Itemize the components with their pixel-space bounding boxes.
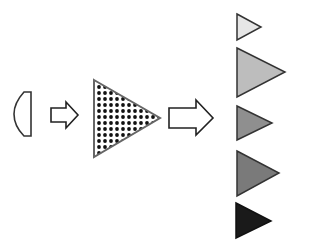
pattern-triangle — [94, 80, 160, 157]
output-triangle-3 — [237, 106, 272, 140]
lens-icon — [14, 92, 31, 136]
arrow-right-icon — [51, 102, 78, 128]
diagram-canvas — [0, 0, 310, 249]
output-triangle-1 — [237, 14, 261, 40]
output-triangle-5 — [236, 203, 271, 238]
output-triangle-4 — [237, 151, 279, 196]
arrow-right-icon — [169, 100, 213, 135]
output-triangle-2 — [237, 48, 285, 97]
